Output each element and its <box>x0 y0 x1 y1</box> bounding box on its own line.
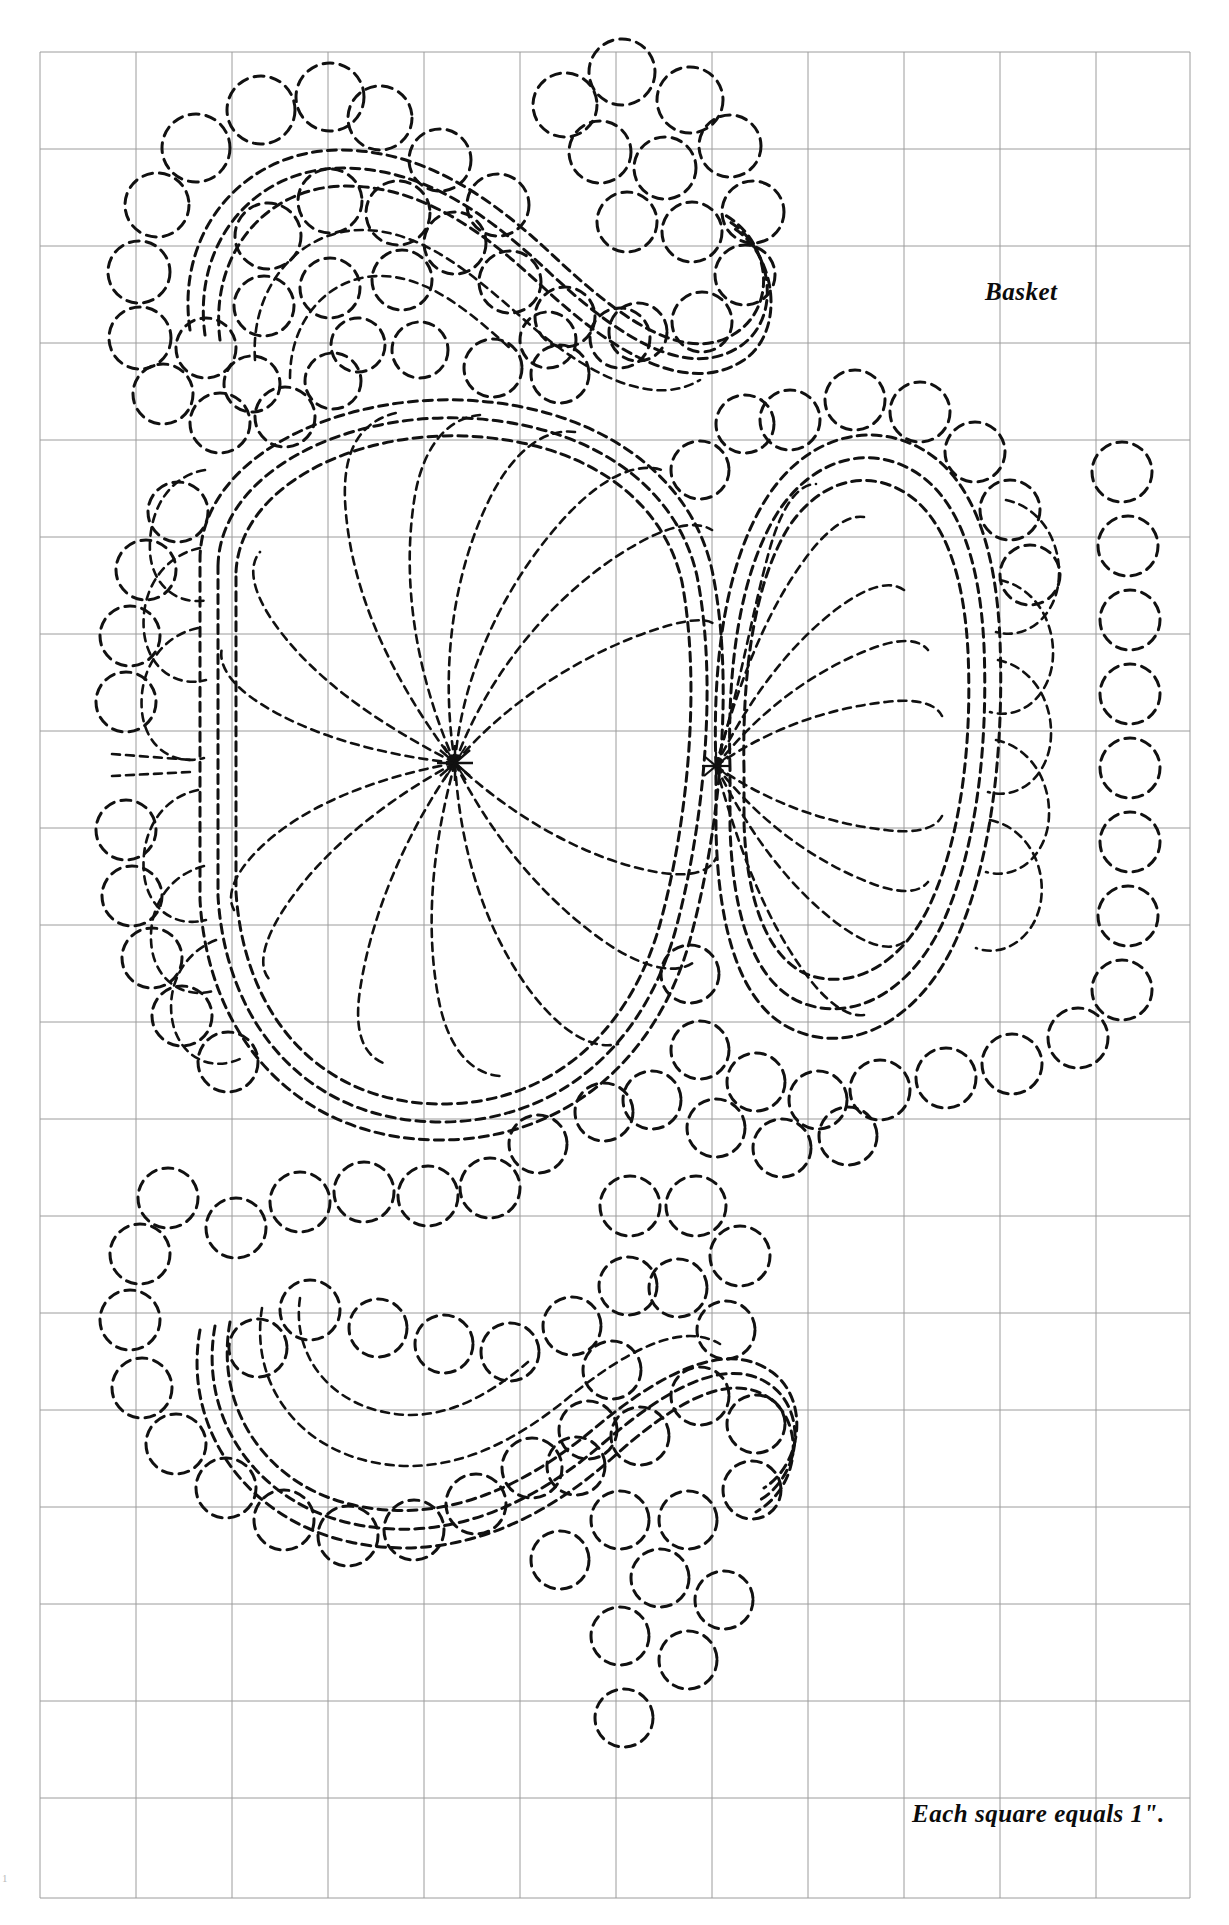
pattern-name-label: Basket <box>985 278 1057 306</box>
page-number: 1 <box>2 1872 8 1884</box>
pattern-page: .gl { stroke: #9c9c9c; stroke-width: 1; … <box>0 0 1229 1925</box>
scale-note-label: Each square equals 1". <box>912 1800 1165 1828</box>
paisley-motif-lower-left <box>100 1158 797 1747</box>
pinwheel-center-right <box>702 752 730 780</box>
